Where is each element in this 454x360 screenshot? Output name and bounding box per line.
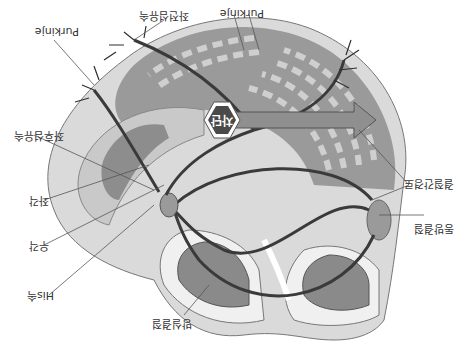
label-purkinje-right: Purkinje bbox=[220, 7, 264, 20]
label-left-posterior-fascicle: 좌후섬유속 bbox=[14, 129, 64, 142]
label-right-bundle: 우각 bbox=[29, 239, 49, 252]
label-purkinje-left: Purkinje bbox=[35, 25, 79, 38]
label-left-bundle: 좌각 bbox=[29, 194, 49, 207]
block-label: 차단 bbox=[211, 113, 233, 128]
label-sa-node: 동방결절 bbox=[414, 222, 454, 235]
label-his-bundle: His속 bbox=[27, 289, 54, 302]
heart-conduction-diagram: 차단 bbox=[0, 0, 454, 360]
rotated-diagram-stage: 차단 동방결절 결절간경로 방실결절 His속 우각 좌각 좌후섬유속 좌전섬유… bbox=[0, 0, 454, 360]
sa-node bbox=[367, 200, 391, 240]
label-internodal: 결절간경로 bbox=[404, 177, 454, 190]
label-left-anterior-fascicle: 좌전섬유속 bbox=[139, 9, 189, 22]
av-node bbox=[160, 193, 178, 217]
label-av-node: 방실결절 bbox=[152, 317, 192, 330]
